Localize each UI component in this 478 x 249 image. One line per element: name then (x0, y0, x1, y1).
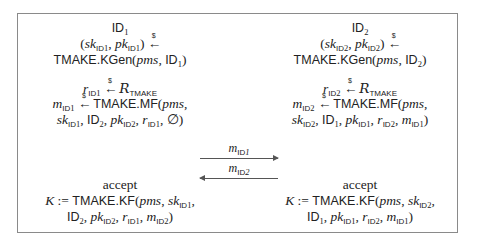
party-id2-randomness: rID2 $← RTMAKE (260, 80, 460, 97)
party-id2-keygen-line2: TMAKE.KGen(pms, ID2) (260, 52, 460, 68)
party-id2-message-gen-line2: skID2, ID1, pkID1, rID2, mID1) (260, 112, 460, 128)
party-id2-key-derivation-line2: ID1, pkID1, rID2, mID1) (260, 209, 460, 225)
party-id1-randomness: rID1 $← RTMAKE (20, 80, 220, 97)
sample-arrow-icon: $← (78, 96, 90, 112)
party-id1-key-derivation-line2: ID2, pkID2, rID1, mID2) (20, 209, 220, 225)
party-id2-key-derivation-line1: K := TMAKE.KF(pms, skID2, (260, 193, 460, 209)
message-label-id1: mID1 (200, 141, 278, 156)
party-id1-keygen-line1: (skID1, pkID1) $← (20, 36, 220, 52)
party-id1-message-gen-line2: skID1, ID2, pkID2, rID1, ∅) (20, 112, 220, 128)
party-id2-title: ID2 (260, 20, 460, 36)
sample-arrow-icon: $← (388, 36, 400, 52)
sample-arrow-icon: $← (344, 81, 356, 97)
party-id1-keygen-line2: TMAKE.KGen(pms, ID1) (20, 52, 220, 68)
sample-arrow-icon: $← (104, 81, 116, 97)
sample-arrow-icon: $← (148, 36, 160, 52)
sample-arrow-icon: $← (318, 96, 330, 112)
party-id2-keygen-line1: (skID2, pkID2) $← (260, 36, 460, 52)
party-id1-key-derivation-line1: K := TMAKE.KF(pms, skID1, (20, 193, 220, 209)
party-id1-title: ID1 (20, 20, 220, 36)
party-id2-accept: accept (260, 177, 460, 193)
party-id1-accept: accept (20, 177, 220, 193)
party-id2-message-gen-line1: mID2 $← TMAKE.MF(pms, (260, 96, 460, 112)
arrow-right-icon (200, 158, 278, 159)
party-id1-message-gen-line1: mID1 $← TMAKE.MF(pms, (20, 96, 220, 112)
message-label-id2: mID2 (200, 161, 278, 176)
